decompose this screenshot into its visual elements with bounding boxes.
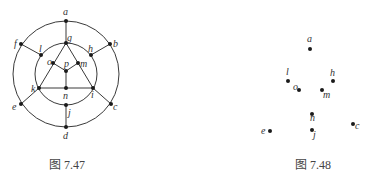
vertex-a xyxy=(64,19,68,23)
vertex-label-g: g xyxy=(67,32,72,43)
vertex-label-h: h xyxy=(330,67,335,78)
edge-b-h xyxy=(91,44,110,55)
edge-g-k xyxy=(39,43,66,88)
vertex-label-n: n xyxy=(310,112,315,123)
vertex-e xyxy=(19,102,23,106)
vertex-label-p: p xyxy=(63,58,69,69)
vertex-label-h: h xyxy=(88,43,93,54)
vertex-h xyxy=(331,79,335,83)
vertex-label-f: f xyxy=(14,38,18,49)
vertex-label-o: o xyxy=(47,56,52,67)
figure-7-47-graph: abcdefghijklmnop xyxy=(12,6,119,141)
vertex-b xyxy=(108,42,112,46)
figure-caption-7-48: 图 7.48 xyxy=(295,155,331,173)
vertex-label-m: m xyxy=(80,58,87,69)
vertex-label-j: j xyxy=(66,107,71,118)
edge-f-l xyxy=(21,44,41,55)
vertex-d xyxy=(64,125,68,129)
vertex-p xyxy=(64,69,68,73)
vertex-f xyxy=(19,42,23,46)
vertex-label-i: i xyxy=(91,89,94,100)
figure-caption-7-47: 图 7.47 xyxy=(49,155,85,173)
vertex-label-m: m xyxy=(323,89,330,100)
vertex-label-e: e xyxy=(261,125,266,136)
edge-c-i xyxy=(93,88,111,104)
vertex-a xyxy=(308,47,312,51)
vertex-label-e: e xyxy=(12,101,17,112)
vertex-label-l: l xyxy=(39,43,42,54)
vertex-label-b: b xyxy=(113,38,118,49)
vertex-k xyxy=(37,86,41,90)
vertex-label-c: c xyxy=(113,101,118,112)
vertex-l xyxy=(286,79,290,83)
vertex-label-c: c xyxy=(355,120,360,131)
edge-e-k xyxy=(21,88,39,104)
vertex-label-k: k xyxy=(31,83,36,94)
figure-7-48-vertex-set: alohmnjec xyxy=(261,33,360,140)
vertex-label-l: l xyxy=(286,66,289,77)
vertex-label-o: o xyxy=(293,81,298,92)
vertex-label-d: d xyxy=(63,130,69,141)
vertex-label-n: n xyxy=(63,90,68,101)
vertex-label-a: a xyxy=(63,6,68,17)
vertex-label-a: a xyxy=(307,33,312,44)
vertex-e xyxy=(268,129,272,133)
